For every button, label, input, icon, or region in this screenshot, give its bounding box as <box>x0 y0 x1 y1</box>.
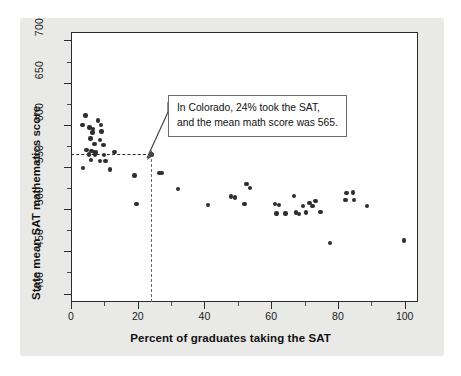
scatter-point <box>99 123 103 127</box>
y-axis-tick-label: 550 <box>33 145 45 187</box>
x-axis-minor-tick <box>371 302 372 306</box>
scatter-point <box>102 153 106 157</box>
scatter-point <box>248 186 252 190</box>
scatter-point <box>89 158 93 162</box>
scatter-point <box>83 113 87 117</box>
scatter-point <box>90 130 94 134</box>
scatter-point <box>274 211 278 215</box>
scatter-point <box>233 195 237 199</box>
y-axis-tick-mark <box>64 251 71 252</box>
scatter-point <box>103 159 107 163</box>
y-axis-tick-label: 500 <box>33 187 45 229</box>
scatter-point <box>92 142 96 146</box>
scatter-point <box>88 136 92 140</box>
scatter-point <box>87 152 91 156</box>
scatter-point <box>301 204 305 208</box>
scatter-point <box>132 173 136 177</box>
x-axis-tick-mark <box>138 302 139 309</box>
scatter-point <box>96 118 100 122</box>
y-axis-tick-label: 650 <box>33 61 45 103</box>
scatter-point <box>101 143 105 147</box>
scatter-point <box>343 198 347 202</box>
scatter-point <box>402 238 406 242</box>
scatter-point <box>93 153 97 157</box>
scatter-point <box>277 203 281 207</box>
x-axis-title: Percent of graduates taking the SAT <box>0 332 461 344</box>
x-axis-tick-label: 20 <box>132 310 144 322</box>
scatter-point <box>352 198 356 202</box>
scatter-point <box>108 167 112 171</box>
scatter-point <box>81 166 85 170</box>
x-axis-tick-mark <box>338 302 339 309</box>
scatter-point <box>304 210 308 214</box>
y-axis-tick-mark <box>64 83 71 84</box>
scatter-point <box>351 190 355 194</box>
scatter-point <box>283 211 287 215</box>
y-axis-tick-mark <box>64 167 71 168</box>
x-axis-minor-tick <box>171 302 172 306</box>
y-axis-tick-label: 700 <box>33 18 45 60</box>
x-axis-tick-mark <box>71 302 72 309</box>
scatter-point <box>313 199 317 203</box>
scatter-point <box>99 129 103 133</box>
x-axis-tick-mark <box>271 302 272 309</box>
annotation-callout: In Colorado, 24% took the SAT, and the m… <box>168 95 347 137</box>
scatter-point <box>297 212 301 216</box>
colorado-highlight-point <box>149 152 154 157</box>
x-axis-tick-label: 40 <box>199 310 211 322</box>
scatter-point <box>80 123 84 127</box>
scatter-point <box>176 187 180 191</box>
scatter-point <box>98 138 102 142</box>
scatter-point <box>134 202 138 206</box>
scatter-point <box>310 204 314 208</box>
scatter-point <box>160 171 164 175</box>
y-axis-tick-mark <box>64 209 71 210</box>
annotation-line-1: In Colorado, 24% took the SAT, <box>177 101 339 116</box>
x-axis-minor-tick <box>238 302 239 306</box>
x-axis-minor-tick <box>104 302 105 306</box>
plot-area <box>71 32 418 302</box>
scatter-point <box>242 202 246 206</box>
y-axis-tick-label: 450 <box>33 229 45 271</box>
scatter-point <box>318 210 322 214</box>
y-axis-tick-label: 600 <box>33 103 45 145</box>
horizontal-reference-line <box>71 154 151 155</box>
scatter-point <box>328 241 332 245</box>
y-axis-tick-mark <box>64 294 71 295</box>
vertical-reference-line <box>151 154 152 302</box>
x-axis-minor-tick <box>305 302 306 306</box>
scatter-point <box>292 194 296 198</box>
x-axis-tick-label: 60 <box>265 310 277 322</box>
scatter-point <box>365 204 369 208</box>
scatter-point <box>112 150 116 154</box>
x-axis-tick-label: 100 <box>396 310 414 322</box>
scatter-point <box>344 191 348 195</box>
chart-figure: State mean SAT mathematics score 4004505… <box>0 0 461 376</box>
scatter-point <box>206 203 210 207</box>
scatter-point <box>98 159 102 163</box>
x-axis-tick-mark <box>405 302 406 309</box>
x-axis-tick-label: 0 <box>68 310 74 322</box>
y-axis-tick-mark <box>64 125 71 126</box>
y-axis-tick-mark <box>64 40 71 41</box>
y-axis-tick-label: 400 <box>33 272 45 314</box>
x-axis-tick-label: 80 <box>332 310 344 322</box>
annotation-line-2: and the mean math score was 565. <box>177 116 339 131</box>
x-axis-tick-mark <box>204 302 205 309</box>
